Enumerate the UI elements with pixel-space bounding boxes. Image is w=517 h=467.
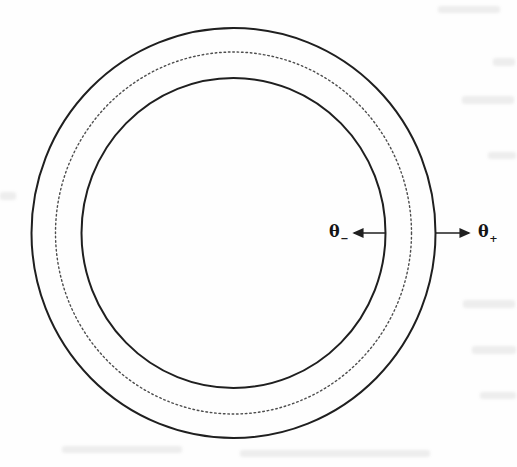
- theta-minus-base: θ: [329, 222, 340, 241]
- theta-minus-label: θ−: [329, 224, 349, 243]
- scanned-figure-page: θ− θ+: [0, 0, 517, 467]
- theta-plus-subscript: +: [489, 233, 498, 244]
- theta-minus-subscript: −: [340, 233, 349, 244]
- theta-plus-base: θ: [478, 222, 489, 241]
- concentric-circles-diagram: [0, 0, 517, 467]
- theta-plus-label: θ+: [478, 224, 498, 243]
